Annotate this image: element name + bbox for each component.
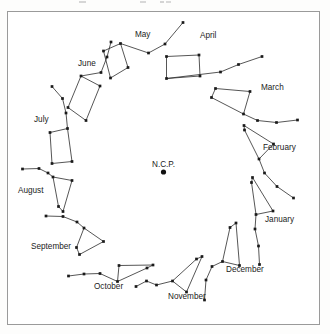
star: [258, 158, 261, 161]
star: [127, 66, 130, 69]
star: [165, 55, 168, 58]
star: [275, 121, 278, 124]
month-label-march: March: [261, 83, 284, 92]
handle-outline: [52, 87, 68, 129]
star: [229, 226, 232, 229]
star: [47, 172, 50, 175]
star: [152, 264, 155, 267]
star: [272, 210, 275, 213]
star: [106, 56, 109, 59]
star: [57, 205, 60, 208]
star: [67, 106, 70, 109]
star: [249, 90, 252, 93]
star: [135, 285, 138, 288]
star: [195, 258, 198, 261]
handle-outline: [259, 159, 294, 198]
month-label-april: April: [200, 31, 217, 40]
star: [235, 222, 238, 225]
star: [198, 54, 201, 57]
bowl-outline: [77, 228, 104, 255]
star: [71, 160, 74, 163]
handle-outline: [167, 57, 263, 79]
constellation-june: June: [67, 41, 113, 122]
constellation-october: October: [67, 264, 154, 291]
star: [71, 179, 74, 182]
bowl-outline: [252, 178, 274, 215]
star: [199, 75, 202, 78]
bowl-outline: [68, 76, 100, 121]
star: [219, 71, 222, 74]
star: [99, 85, 102, 88]
constellation-january: January: [250, 176, 295, 266]
star: [250, 181, 253, 184]
star: [210, 96, 213, 99]
ncp-label: N.C.P.: [152, 160, 175, 169]
constellation-february: February: [243, 124, 297, 199]
star: [254, 228, 257, 231]
star: [78, 253, 81, 256]
star: [205, 279, 208, 282]
month-label-october: October: [94, 282, 123, 291]
star: [276, 185, 279, 188]
star: [201, 255, 204, 258]
star: [171, 280, 174, 283]
month-label-may: May: [135, 30, 151, 39]
star: [109, 77, 112, 80]
star: [211, 265, 214, 268]
star: [292, 197, 295, 200]
star: [182, 21, 185, 24]
constellation-april: April: [165, 31, 263, 80]
star: [165, 77, 168, 80]
star: [263, 172, 266, 175]
bowl-outline: [212, 89, 251, 115]
star: [155, 284, 158, 287]
star: [255, 213, 258, 216]
star: [145, 280, 148, 283]
constellation-december: December: [203, 222, 264, 302]
star: [237, 63, 240, 66]
handle-outline: [69, 274, 118, 282]
star: [243, 124, 246, 127]
month-label-february: February: [263, 143, 297, 152]
constellation-september: September: [31, 215, 105, 256]
month-label-december: December: [226, 265, 264, 274]
constellation-november: November: [135, 255, 206, 301]
constellation-march: March: [210, 83, 299, 124]
star: [62, 215, 65, 218]
star: [214, 87, 217, 90]
star: [147, 52, 150, 55]
handle-outline: [244, 114, 298, 123]
star: [65, 112, 68, 115]
star: [21, 168, 24, 171]
star: [38, 167, 41, 170]
star: [66, 127, 69, 130]
bowl-outline: [50, 129, 72, 164]
north-celestial-pole-marker: N.C.P.: [152, 160, 175, 175]
star: [257, 245, 260, 248]
star: [45, 215, 48, 218]
star: [221, 260, 224, 263]
star: [83, 227, 86, 230]
star: [102, 50, 105, 53]
star: [51, 162, 54, 165]
bowl-outline: [53, 177, 72, 212]
star: [100, 71, 103, 74]
star: [80, 75, 83, 78]
star: [102, 240, 105, 243]
star: [243, 129, 246, 132]
star: [261, 55, 264, 58]
star: [118, 264, 121, 267]
star: [242, 113, 245, 116]
star: [146, 267, 149, 270]
star: [49, 131, 52, 134]
bowl-outline: [223, 223, 240, 266]
ncp-dot: [161, 169, 166, 174]
star: [75, 246, 78, 249]
handle-outline: [136, 281, 173, 287]
star: [164, 43, 167, 46]
star: [67, 275, 70, 278]
month-label-january: January: [265, 215, 295, 224]
month-label-november: November: [168, 292, 206, 301]
star: [61, 97, 64, 100]
star: [296, 119, 299, 122]
